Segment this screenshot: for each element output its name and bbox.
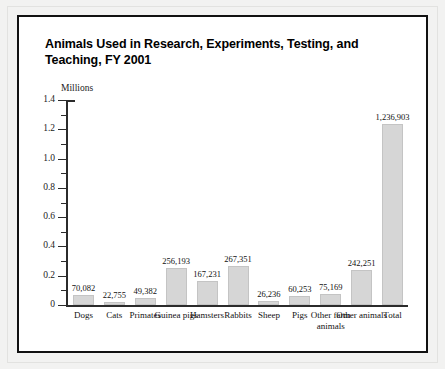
y-tick-minor (61, 261, 66, 262)
bar[interactable] (382, 124, 403, 305)
bar[interactable] (258, 301, 279, 305)
y-tick-major (58, 159, 66, 160)
y-tick-minor (61, 144, 66, 145)
bar-slot: 49,382 (135, 100, 156, 305)
bar-value-label: 1,236,903 (363, 112, 423, 122)
y-tick-major (58, 217, 66, 218)
bar-slot: 242,251 (351, 100, 372, 305)
y-tick-label: 0.8 (29, 182, 55, 192)
y-tick-major (58, 305, 66, 306)
y-tick-label: 0 (29, 299, 55, 309)
bar[interactable] (351, 270, 372, 305)
x-axis-baseline (66, 305, 408, 307)
chart-title: Animals Used in Research, Experiments, T… (45, 36, 385, 68)
x-axis-category-labels: DogsCatsPrimatesGuinea pigsHamstersRabbi… (68, 310, 408, 366)
bar[interactable] (197, 281, 218, 305)
y-tick-major (58, 100, 66, 101)
y-tick-label: 0.6 (29, 211, 55, 221)
bar-slot: 60,253 (289, 100, 310, 305)
bar-slot: 22,755 (104, 100, 125, 305)
y-tick-minor (61, 173, 66, 174)
y-tick-label: 0.4 (29, 240, 55, 250)
y-tick-minor (61, 203, 66, 204)
y-axis-unit-label: Millions (61, 83, 93, 93)
x-axis-label: Total (365, 310, 421, 321)
bar-slot: 75,169 (320, 100, 341, 305)
bar-series: 70,08222,75549,382256,193167,231267,3512… (68, 100, 408, 305)
y-tick-label: 1.0 (29, 153, 55, 163)
bar-slot: 1,236,903 (382, 100, 403, 305)
bar[interactable] (289, 296, 310, 305)
bar[interactable] (320, 294, 341, 305)
y-tick-major (58, 129, 66, 130)
bar-slot: 26,236 (258, 100, 279, 305)
y-tick-major (58, 188, 66, 189)
figure-frame: Animals Used in Research, Experiments, T… (17, 15, 428, 353)
plot-area: 00.20.40.60.81.01.21.4 70,08222,75549,38… (66, 100, 408, 307)
y-tick-minor (61, 232, 66, 233)
y-tick-minor (61, 115, 66, 116)
bar-slot: 267,351 (228, 100, 249, 305)
page-background: Animals Used in Research, Experiments, T… (0, 0, 445, 369)
bar[interactable] (135, 298, 156, 305)
y-tick-label: 1.2 (29, 123, 55, 133)
y-tick-major (58, 246, 66, 247)
y-tick-major (58, 276, 66, 277)
bar[interactable] (104, 302, 125, 305)
bar-slot: 167,231 (197, 100, 218, 305)
bar-slot: 70,082 (73, 100, 94, 305)
y-tick-label: 0.2 (29, 270, 55, 280)
y-tick-label: 1.4 (29, 94, 55, 104)
